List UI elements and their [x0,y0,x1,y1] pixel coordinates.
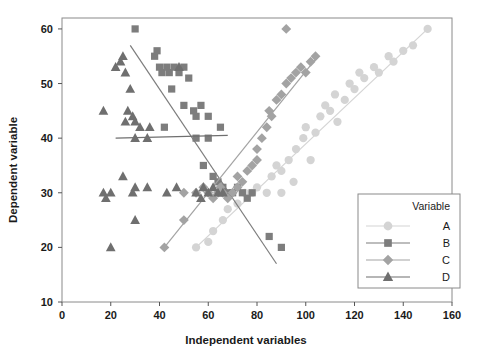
x-axis-ticks: 020406080100120140160 [59,302,461,321]
data-point-a [424,25,432,33]
data-point-d [125,84,135,93]
data-point-b [153,47,160,54]
data-point-d [142,182,152,191]
x-axis-title: Independent variables [185,334,306,346]
data-point-d [118,51,128,60]
data-point-d [106,188,116,197]
data-point-a [341,96,349,104]
data-point-b [278,244,285,251]
y-axis-ticks: 102030405060 [41,23,62,308]
data-point-d [121,68,131,77]
legend-marker-a [384,222,393,231]
x-tick-label: 80 [251,309,263,321]
data-point-d [145,122,155,131]
legend-label-a: A [443,220,451,232]
series-d [99,51,228,251]
data-point-a [219,216,227,224]
data-point-d [123,106,133,115]
data-point-a [409,41,417,49]
x-tick-label: 140 [394,309,412,321]
x-tick-label: 20 [105,309,117,321]
data-point-c [179,215,189,225]
data-point-a [299,134,307,142]
data-point-a [307,156,315,164]
data-point-b [200,162,207,169]
legend-label-d: D [442,271,450,283]
data-point-d [130,215,140,224]
data-point-c [252,144,262,154]
data-point-a [263,189,271,197]
data-point-b [161,124,168,131]
scatter-chart: 020406080100120140160 102030405060 Varia… [0,0,482,351]
data-point-a [268,172,276,180]
legend-marker-b [384,239,392,247]
data-point-a [331,90,339,98]
data-point-a [326,107,334,115]
y-tick-label: 60 [41,23,53,35]
data-point-b [132,25,139,32]
y-tick-label: 30 [41,187,53,199]
data-point-a [204,238,212,246]
data-point-b [197,102,204,109]
data-point-c [257,133,267,143]
data-point-a [360,74,368,82]
chart-legend: VariableABCD [358,194,460,288]
data-point-b [205,113,212,120]
data-point-a [292,145,300,153]
data-point-d [121,117,131,126]
x-tick-label: 120 [345,309,363,321]
x-tick-label: 100 [297,309,315,321]
data-point-b [168,85,175,92]
data-point-b [217,124,224,131]
data-point-a [375,68,383,76]
data-point-b [266,233,273,240]
legend-label-c: C [442,254,450,266]
data-point-b [185,74,192,81]
y-tick-label: 40 [41,132,53,144]
data-point-a [277,167,285,175]
data-point-b [249,189,256,196]
x-tick-label: 60 [202,309,214,321]
series-b [130,25,285,263]
y-tick-label: 10 [41,296,53,308]
trendline-b [130,45,276,263]
data-point-a [302,123,310,131]
data-point-b [192,113,199,120]
data-point-a [316,112,324,120]
data-point-a [224,205,232,213]
legend-label-b: B [443,237,450,249]
data-point-a [389,58,397,66]
data-point-a [209,227,217,235]
data-point-d [99,106,109,115]
legend-title: Variable [412,200,450,212]
data-point-a [311,129,319,137]
y-tick-label: 20 [41,241,53,253]
chart-canvas: 020406080100120140160 102030405060 Varia… [0,0,482,351]
data-point-d [106,242,116,251]
data-point-a [285,156,293,164]
x-tick-label: 40 [153,309,165,321]
series-c [159,24,320,252]
data-point-a [289,178,297,186]
data-point-a [333,118,341,126]
y-axis-title: Dependent variable [7,117,19,223]
data-point-d [172,182,182,191]
x-tick-label: 160 [443,309,461,321]
data-point-d [162,188,172,197]
data-point-a [350,85,358,93]
x-tick-label: 0 [59,309,65,321]
data-point-a [277,189,285,197]
data-point-c [281,24,291,34]
data-point-d [118,171,128,180]
data-point-a [192,243,200,251]
y-tick-label: 50 [41,78,53,90]
data-point-a [399,47,407,55]
data-point-b [180,102,187,109]
